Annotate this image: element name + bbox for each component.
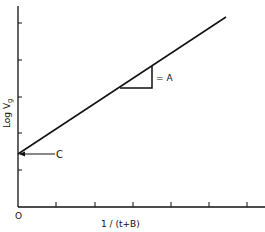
origin-label: O (15, 211, 22, 221)
regression-line (18, 17, 226, 154)
y-axis-label-subscript: g (6, 98, 14, 102)
slope-label: = A (156, 73, 173, 83)
y-axis-label-group: Log Vg (2, 98, 14, 128)
y-axis-label: Log V (2, 102, 12, 128)
log-vg-plot: C = A O 1 / (t+B) Log Vg (0, 0, 265, 232)
svg-text:Log Vg: Log Vg (2, 98, 14, 128)
x-ticks (56, 202, 247, 207)
x-axis-label: 1 / (t+B) (101, 219, 140, 229)
intercept-label: C (56, 149, 63, 160)
